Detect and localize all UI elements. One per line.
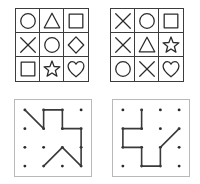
cross-icon	[113, 11, 133, 31]
circle-icon	[18, 11, 38, 31]
shape-cell-cross	[16, 33, 40, 57]
heart-icon	[161, 59, 181, 79]
dot-lattice-left	[14, 99, 92, 177]
dot-lattice-right	[112, 99, 190, 177]
triangle-icon	[42, 11, 62, 31]
lattice-dot	[23, 165, 26, 168]
square-icon	[66, 11, 86, 31]
shape-cell-cross	[111, 9, 135, 33]
shape-cell-circle	[16, 9, 40, 33]
shape-cell-circle	[111, 57, 135, 81]
shape-cell-diamond	[64, 33, 88, 57]
lattice-dot	[159, 127, 162, 130]
lattice-dot	[61, 165, 64, 168]
shape-cell-square	[159, 9, 183, 33]
lattice-dot	[178, 108, 181, 111]
shape-cell-square	[16, 57, 40, 81]
shape-cell-cross	[111, 33, 135, 57]
heart-icon	[66, 59, 86, 79]
shape-cell-star	[159, 33, 183, 57]
lattice-dot	[23, 146, 26, 149]
star-icon	[42, 59, 62, 79]
lattice-dot	[178, 146, 181, 149]
shape-cell-triangle	[40, 9, 64, 33]
shape-cell-circle	[40, 33, 64, 57]
path-polyline	[25, 110, 81, 166]
shape-cell-triangle	[135, 33, 159, 57]
shape-grid-left	[15, 8, 89, 82]
lattice-dot	[121, 165, 124, 168]
circle-icon	[113, 59, 133, 79]
path-polyline	[123, 110, 179, 166]
cross-icon	[18, 35, 38, 55]
triangle-icon	[137, 35, 157, 55]
lattice-dot	[42, 146, 45, 149]
square-icon	[18, 59, 38, 79]
lattice-dot	[80, 108, 83, 111]
diamond-icon	[66, 35, 86, 55]
shape-cell-cross	[135, 57, 159, 81]
star-icon	[161, 35, 181, 55]
shape-cell-circle	[135, 9, 159, 33]
lattice-dot	[159, 108, 162, 111]
lattice-dot	[178, 165, 181, 168]
lattice-dot	[23, 127, 26, 130]
shape-cell-heart	[159, 57, 183, 81]
circle-icon	[42, 35, 62, 55]
shape-cell-heart	[64, 57, 88, 81]
square-icon	[161, 11, 181, 31]
shape-cell-square	[64, 9, 88, 33]
circle-icon	[137, 11, 157, 31]
cross-icon	[137, 59, 157, 79]
lattice-dot	[121, 108, 124, 111]
shape-cell-star	[40, 57, 64, 81]
cross-icon	[113, 35, 133, 55]
shape-grid-right	[110, 8, 184, 82]
